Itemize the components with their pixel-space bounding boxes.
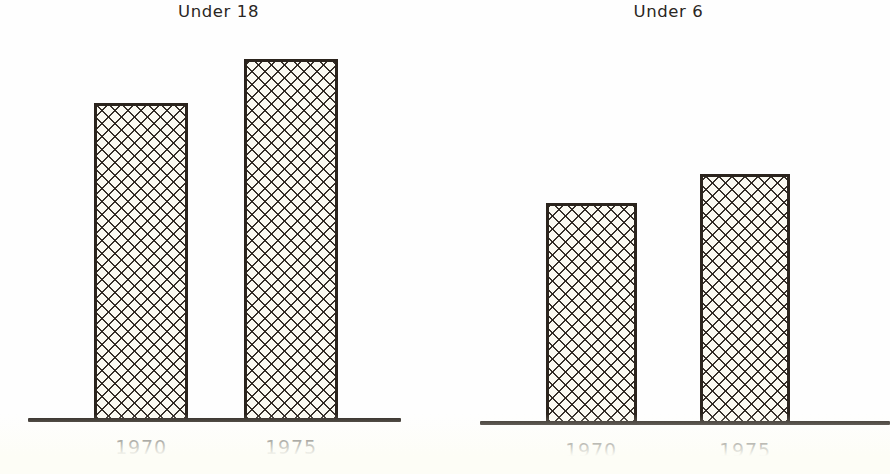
- bar-chart-figure: Under 18 1970 1975 Under 6 1970 1975: [0, 0, 890, 474]
- bar-under6-1970: [546, 203, 637, 425]
- bar-under18-1975: [244, 59, 338, 422]
- chart-panel-under-18: Under 18 1970 1975: [0, 0, 445, 474]
- chart-panel-under-6: Under 6 1970 1975: [445, 0, 890, 474]
- chart-title-under-6: Under 6: [446, 2, 890, 21]
- tick-label-under6-1975: 1975: [685, 439, 805, 461]
- tick-label-under18-1970: 1970: [81, 436, 201, 458]
- baseline-axis-under-18: [28, 418, 401, 422]
- tick-label-under6-1970: 1970: [531, 439, 651, 461]
- baseline-axis-under-6: [480, 421, 890, 425]
- tick-label-under18-1975: 1975: [231, 436, 351, 458]
- bar-under18-1970: [94, 103, 188, 422]
- chart-title-under-18: Under 18: [0, 2, 441, 21]
- bar-under6-1975: [700, 174, 790, 425]
